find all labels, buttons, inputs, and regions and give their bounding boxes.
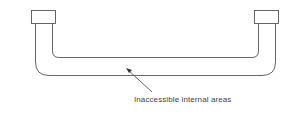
left-end-cap — [32, 11, 56, 24]
callout-label: Inaccessible internal areas — [134, 95, 231, 104]
pipe-diagram: Inaccessible internal areas — [0, 0, 299, 116]
right-end-cap — [255, 11, 279, 24]
pipe-outer-wall — [36, 24, 276, 76]
pipe-inner-wall — [53, 24, 259, 58]
leader-line — [128, 70, 152, 92]
